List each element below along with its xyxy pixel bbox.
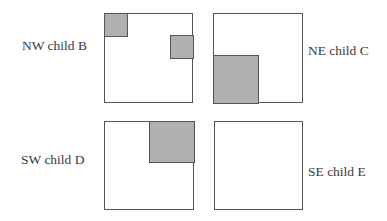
nw-child-box: [104, 13, 193, 103]
nw-shaded-region-top-left: [104, 13, 128, 37]
ne-child-box: [213, 13, 303, 103]
nw-shaded-region-right: [170, 35, 194, 59]
se-child-label: SE child E: [308, 165, 366, 179]
sw-child-box: [104, 121, 194, 210]
ne-shaded-region-bottom-left: [213, 55, 259, 104]
sw-child-label: SW child D: [21, 153, 85, 167]
nw-child-label: NW child B: [22, 39, 87, 53]
sw-shaded-region-top-right: [149, 121, 195, 163]
ne-child-label: NE child C: [308, 44, 369, 58]
quadtree-diagram: NW child B NE child C SW child D SE chil…: [0, 0, 387, 221]
se-child-box: [214, 121, 303, 210]
